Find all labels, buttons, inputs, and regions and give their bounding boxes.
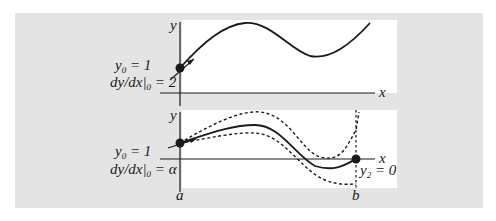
boundary-condition-label: y2 = 0 [358,162,397,180]
b-bound-label: b [352,187,360,203]
bottom-initial-point [176,139,185,148]
shooting-method-diagram: y x y0 = 1 dy/dx|0 = 2 y x y0 = 1 dy/dx|… [0,0,496,221]
top-x-axis-label: x [378,84,386,100]
top-y-axis-label: y [168,17,177,33]
top-solution-curve [180,23,370,68]
top-y0-label: y0 = 1 [113,57,151,75]
a-bound-label: a [176,187,184,203]
bottom-y0-label: y0 = 1 [113,143,151,161]
correct-solution-curve [180,125,356,168]
top-slope-label: dy/dx|0 = 2 [110,74,177,92]
top-axes [160,22,375,106]
bottom-slope-label: dy/dx|0 = α [110,161,178,179]
bottom-y-axis-label: y [168,107,177,123]
top-initial-point [176,64,185,73]
